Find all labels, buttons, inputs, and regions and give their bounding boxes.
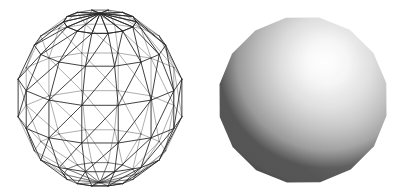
mesh-edge [67,27,77,31]
mesh-edge [59,31,77,62]
mesh-edge [18,79,26,91]
mesh-edge [26,105,59,134]
mesh-edge [77,12,100,13]
mesh-edge [82,24,86,53]
mesh-edge [123,165,133,169]
mesh-edge [67,165,77,169]
mesh-edge [115,91,119,130]
mesh-edge [34,151,63,174]
mesh-edge [108,130,115,163]
mesh-edge [59,134,77,165]
mesh-edge [118,100,151,105]
mesh-edge [77,184,92,186]
mesh-edge [100,179,133,182]
mesh-edge [108,33,115,66]
mesh-edge [41,27,67,55]
mesh-edge [82,91,115,130]
mesh-edge [34,45,41,54]
mesh-edge [67,179,100,182]
mesh-edge [34,22,63,45]
mesh-edge [18,79,26,105]
mesh-edge [115,24,119,53]
mesh-edge [174,68,182,117]
mesh-edge [26,128,34,150]
mesh-edge [26,62,59,91]
mesh-edge [34,141,41,150]
mesh-edge [49,138,82,143]
mesh-edge [18,91,26,117]
mesh-edge [26,55,41,91]
mesh-edge [26,45,34,67]
mesh-edge [123,27,133,31]
mesh-edge [85,143,118,172]
mesh-edge [133,141,159,169]
mesh-edge [100,183,123,184]
mesh-edge [115,143,119,172]
mesh-edge [133,27,159,55]
wireframe-sphere [0,0,205,193]
mesh-edge [49,96,85,130]
mesh-edge [49,66,85,100]
mesh-edge [18,105,26,117]
mesh-edge [166,105,174,151]
mesh-edge [49,53,82,58]
mesh-edge [174,79,182,128]
mesh-edge [26,105,41,141]
mesh-edge [82,143,86,172]
mesh-edge [100,12,123,13]
figure-container [0,0,410,193]
mesh-edge [41,141,67,169]
mesh-edge [133,134,141,169]
shaded-sphere-panel [205,0,410,193]
mesh-edge [85,24,118,53]
mesh-edge [133,27,141,62]
wireframe-mesh-group [18,10,182,186]
shaded-sphere [205,0,410,193]
mesh-edge [133,151,166,180]
mesh-edge [82,91,86,130]
mesh-edge [49,138,59,168]
mesh-edge [82,66,115,105]
wireframe-sphere-panel [0,0,205,193]
specular-highlight [283,27,361,98]
mesh-edge [166,45,174,91]
mesh-edge [118,62,141,105]
